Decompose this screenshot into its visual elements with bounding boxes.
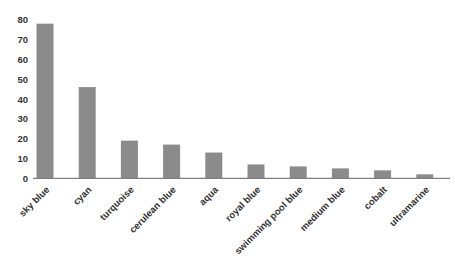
y-tick-label: 30 xyxy=(17,113,28,124)
bar-cyan xyxy=(79,87,96,178)
y-tick-label: 0 xyxy=(23,173,28,184)
x-tick-label: cyan xyxy=(71,184,94,207)
x-tick-label: turquoise xyxy=(97,184,135,222)
y-tick-label: 40 xyxy=(17,94,28,105)
bar-turquoise xyxy=(121,141,138,179)
bar-cobalt xyxy=(374,170,391,178)
y-tick-label: 70 xyxy=(17,34,28,45)
bar-cerulean-blue xyxy=(163,145,180,179)
bar-chart-canvas: 01020304050607080sky bluecyanturquoisece… xyxy=(0,0,455,256)
y-tick-label: 20 xyxy=(17,133,28,144)
x-tick-label: aqua xyxy=(197,183,221,207)
x-tick-label: royal blue xyxy=(223,184,263,224)
bar-chart: 01020304050607080sky bluecyanturquoisece… xyxy=(0,0,455,256)
bar-sky-blue xyxy=(37,24,54,179)
y-tick-label: 60 xyxy=(17,54,28,65)
y-tick-label: 50 xyxy=(17,74,28,85)
bar-medium-blue xyxy=(332,168,349,178)
x-tick-label: ultramarine xyxy=(387,184,431,228)
bar-royal-blue xyxy=(248,164,265,178)
x-tick-label: medium blue xyxy=(298,184,347,233)
x-tick-label: cobalt xyxy=(361,183,389,211)
x-tick-label: sky blue xyxy=(17,184,52,219)
bar-swimming-pool-blue xyxy=(290,166,307,178)
y-tick-label: 10 xyxy=(17,153,28,164)
bar-aqua xyxy=(205,153,222,179)
y-tick-label: 80 xyxy=(17,14,28,25)
